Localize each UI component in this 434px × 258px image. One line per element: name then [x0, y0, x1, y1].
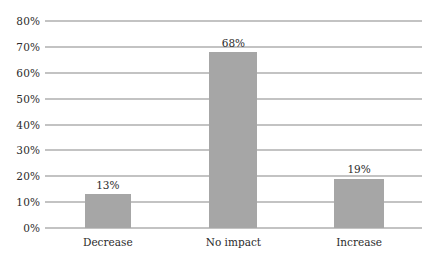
- x-axis-category-no-impact: No impact: [171, 236, 297, 249]
- bar-chart: 80% 70% 60% 50% 40% 30% 20% 10% 0% 13% 6…: [0, 0, 434, 258]
- y-axis-tick-label: 20%: [0, 171, 40, 182]
- y-axis-tick-label: 0%: [0, 223, 40, 234]
- y-axis-labels: 80% 70% 60% 50% 40% 30% 20% 10% 0%: [0, 21, 40, 228]
- y-axis-tick-label: 10%: [0, 197, 40, 208]
- y-axis-tick-label: 80%: [0, 16, 40, 27]
- x-axis-labels: Decrease No impact Increase: [45, 0, 422, 258]
- y-axis-tick-label: 70%: [0, 42, 40, 53]
- x-axis-category-decrease: Decrease: [45, 236, 171, 249]
- y-axis-tick-label: 30%: [0, 145, 40, 156]
- y-axis-tick-label: 40%: [0, 120, 40, 131]
- x-axis-category-increase: Increase: [296, 236, 422, 249]
- y-axis-tick-label: 50%: [0, 94, 40, 105]
- y-axis-tick-label: 60%: [0, 68, 40, 79]
